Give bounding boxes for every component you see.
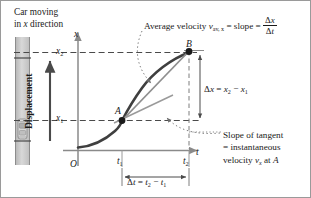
caption-line-2-pre: in xyxy=(14,19,24,29)
avgvel-fraction: ΔxΔt xyxy=(263,15,277,36)
point-A xyxy=(119,117,126,124)
tick-x2-sub: 2 xyxy=(60,50,63,57)
deltax-equals: = xyxy=(214,84,224,94)
slopetan-line2: = instantaneous xyxy=(223,142,281,152)
avgvel-frac-den: Δt xyxy=(263,25,277,36)
label-average-velocity: Average velocity vav, x = slope = ΔxΔt xyxy=(144,15,277,36)
tick-label-t2: t2 xyxy=(183,156,189,168)
point-label-A: A xyxy=(115,106,121,117)
slopetan-line3-pre: velocity xyxy=(223,155,255,165)
label-delta-x: Δx = x2 − x1 xyxy=(204,84,248,95)
caption-line-1: Car moving xyxy=(14,7,58,17)
label-delta-t: Δt = t2 − t1 xyxy=(127,177,166,188)
deltat-term2-sub: 1 xyxy=(163,182,166,188)
label-slope-of-tangent: Slope of tangent = instantaneous velocit… xyxy=(223,129,283,166)
avgvel-num-var: x xyxy=(271,15,275,25)
deltax-minus: − xyxy=(231,84,241,94)
secant-line-average-velocity xyxy=(122,49,191,121)
deltax-term2-sub: 1 xyxy=(245,89,248,95)
slopetan-line3-post: at xyxy=(262,155,273,165)
axis-label-x: x xyxy=(74,29,78,40)
avgvel-equals-slope: = slope = xyxy=(224,21,263,31)
tick-label-t1: t1 xyxy=(117,156,123,168)
deltat-minus: − xyxy=(151,177,161,187)
axis-label-t: t xyxy=(196,147,199,158)
avgvel-text-pre: Average velocity xyxy=(144,21,209,31)
caption-line-2-post: direction xyxy=(28,19,63,29)
point-label-B: B xyxy=(186,39,192,50)
physics-figure-position-time-graph: Car moving in x direction Displacement A… xyxy=(0,0,311,198)
tick-t1-sub: 1 xyxy=(120,160,123,167)
avgvel-den-var: t xyxy=(272,26,274,36)
deltat-equals: = xyxy=(135,177,145,187)
tick-t2-sub: 2 xyxy=(186,160,189,167)
slopetan-point: A xyxy=(273,155,279,165)
tick-label-x1: x1 xyxy=(56,113,63,125)
leader-average-velocity xyxy=(137,31,151,83)
avgvel-symbol-sub: av, x xyxy=(213,26,224,32)
label-displacement: Displacement xyxy=(24,59,35,143)
axis-origin-label: O xyxy=(70,159,77,170)
position-curve xyxy=(78,53,189,148)
avgvel-frac-num: Δx xyxy=(263,15,277,25)
caption-car-moving: Car moving in x direction xyxy=(14,6,63,31)
tick-x1-sub: 1 xyxy=(60,117,63,124)
tick-label-x2: x2 xyxy=(56,46,63,58)
slopetan-line1: Slope of tangent xyxy=(223,130,283,140)
